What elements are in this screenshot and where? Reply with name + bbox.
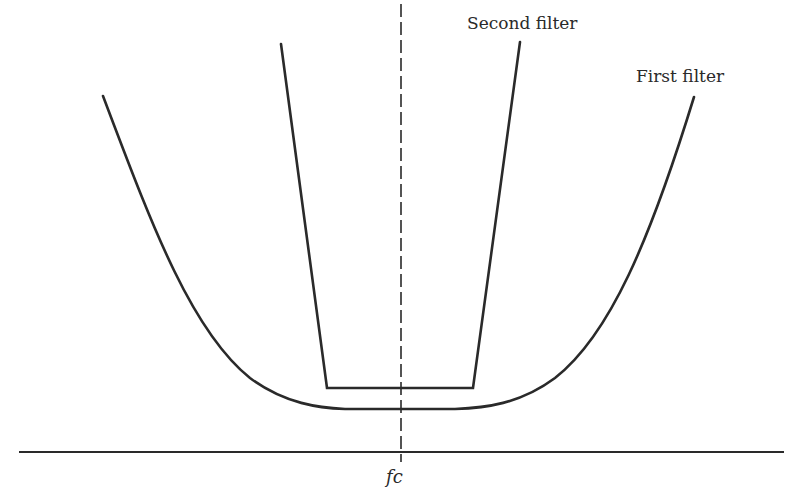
- first-filter-curve: [103, 96, 694, 409]
- filter-response-diagram: Second filter First filter fc: [0, 0, 787, 500]
- second-filter-label: Second filter: [467, 13, 578, 33]
- center-frequency-label: fc: [386, 466, 403, 487]
- first-filter-label: First filter: [636, 66, 724, 86]
